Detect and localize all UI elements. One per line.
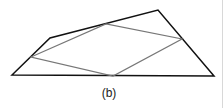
midpoint-parallelogram xyxy=(31,24,182,76)
right-border xyxy=(222,0,223,108)
figure-caption: (b) xyxy=(0,86,218,100)
outer-quadrilateral xyxy=(12,10,214,76)
figure-panel: (b) xyxy=(0,0,224,108)
